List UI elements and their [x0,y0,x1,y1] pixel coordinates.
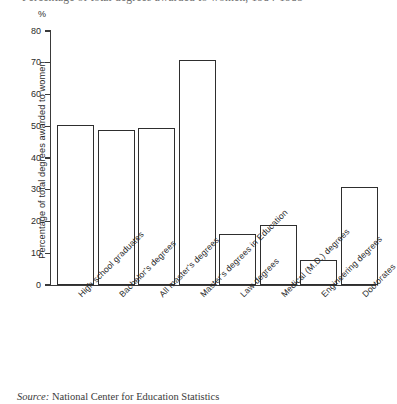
source-label: Source: [17,391,49,402]
source-note: Source: National Center for Education St… [17,391,219,402]
bar [57,125,94,285]
source-text: National Center for Education Statistics [52,391,219,402]
